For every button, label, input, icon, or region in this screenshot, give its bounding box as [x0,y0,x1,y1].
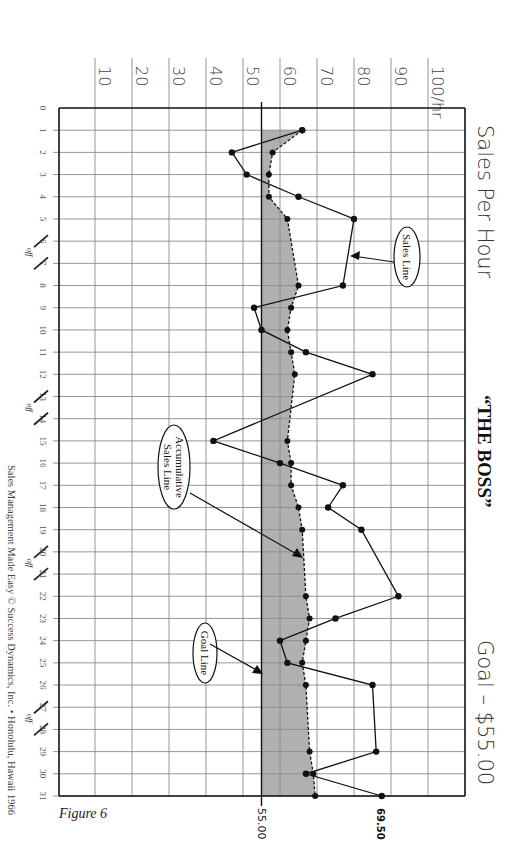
value-tick-label: 10 [95,66,114,86]
sales-point [229,149,235,155]
value-tick-label: 100/hr [428,66,447,119]
sales-point [358,526,364,532]
accumulative-point [292,371,298,377]
day-tick-label: 22 [38,592,48,601]
sales-point [277,637,283,643]
callout-accumulative-label-1: Accumulative [174,436,186,498]
figure-label: Figure 6 [58,806,107,821]
accumulative-point [296,504,302,510]
day-tick-label: 8 [38,283,48,288]
sales-point [395,593,401,599]
day-tick-label: 26 [38,681,48,691]
day-tick-label: 24 [38,636,48,646]
day-tick-label: 19 [38,525,48,535]
sales-point [303,771,309,777]
off-label: off [25,714,34,724]
day-tick-label: 23 [38,614,48,624]
value-tick-label: 90 [391,66,410,86]
sales-point [244,171,250,177]
sales-point [332,615,338,621]
accumulative-point [266,172,272,178]
sales-point [373,748,379,754]
callout-goal-line: Goal Line [193,623,263,683]
accumulative-point [288,349,294,355]
sales-point [340,282,346,288]
callout-sales-line-label: Sales Line [401,234,413,280]
value-tick-label: 60 [280,66,299,86]
day-tick-label: 15 [38,436,48,446]
sales-point [277,460,283,466]
accumulative-point [299,660,305,666]
chart-title-goal: Goal – $55.00 [473,640,497,785]
sales-point [251,305,257,311]
day-tick-label: 18 [38,503,48,513]
accumulative-point [307,749,313,755]
final-value-label: 69.50 [375,808,386,840]
callout-accumulative-label-2: Sales Line [162,444,174,490]
day-tick-label: 5 [38,217,48,222]
value-tick-label: 30 [169,66,188,86]
sales-point [299,127,305,133]
sales-point [295,194,301,200]
day-tick-label: 3 [38,172,48,177]
sales-point [351,216,357,222]
sales-point [303,349,309,355]
day-tick-label: 21 [38,570,48,579]
accumulative-point [303,682,309,688]
day-tick-label: 25 [38,658,48,668]
sales-point [340,482,346,488]
day-tick-label: 2 [38,150,48,155]
day-tick-label: 30 [38,769,48,779]
accumulative-point [307,615,313,621]
off-label: off [25,403,34,413]
day-tick-label: 12 [38,370,48,379]
accumulative-point [288,305,294,311]
accumulative-point [296,283,302,289]
sales-point [325,504,331,510]
day-tick-label: 16 [38,459,48,469]
accumulative-point [303,638,309,644]
day-tick-label: 11 [38,348,48,357]
accumulative-point [299,527,305,533]
accumulative-point [288,482,294,488]
value-tick-label: 50 [243,66,262,86]
accumulative-point [270,149,276,155]
sales-point [369,682,375,688]
off-label: off [25,559,34,569]
day-tick-label: 9 [38,305,48,310]
day-tick-label: 29 [38,747,48,757]
accumulative-point [284,216,290,222]
accumulative-point [303,593,309,599]
accumulative-point [266,194,272,200]
day-tick-label: 1 [38,128,48,133]
sales-per-hour-chart: 102030405060708090100/hr0123456789101112… [0,0,518,862]
value-tick-label: 20 [132,66,151,86]
sales-point [258,327,264,333]
accumulative-point [284,438,290,444]
chart-grid [53,58,465,796]
chart-title-sales-per-hour: Sales Per Hour [473,125,497,279]
day-tick-label: 4 [38,195,48,200]
sales-point [369,371,375,377]
goal-value-label: 55.00 [255,808,268,840]
sales-point [284,660,290,666]
sales-point [210,438,216,444]
off-label: off [25,248,34,258]
accumulative-point [284,327,290,333]
day-tick-label: 10 [38,325,48,335]
day-tick-label: 31 [38,792,48,801]
chart-title-the-boss: “THE BOSS” [474,395,495,507]
value-tick-label: 40 [206,66,225,86]
value-tick-label: 70 [317,66,336,86]
day-tick-label: 0 [38,106,48,111]
accumulative-point [288,460,294,466]
copyright-text: Sales Management Made Easy © Success Dyn… [6,465,17,815]
day-tick-label: 17 [38,481,48,491]
callout-goal-line-label: Goal Line [199,631,211,675]
value-tick-label: 80 [354,66,373,86]
callout-sales-line: Sales Line [350,227,420,287]
